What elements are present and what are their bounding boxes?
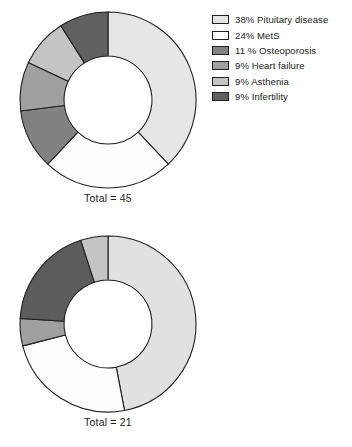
donut-slice	[20, 240, 94, 321]
legend-item-label: 9% Infertility	[235, 91, 288, 102]
legend-item: 9% Asthenia	[212, 74, 352, 89]
donut-slices-bottom	[20, 236, 196, 412]
donut-slices-top	[20, 12, 196, 188]
legend-item: 9% Heart failure	[212, 58, 352, 73]
legend-swatch-icon	[212, 46, 229, 55]
total-label-top: Total = 45	[8, 192, 208, 204]
donut-chart-bottom-svg	[8, 228, 208, 420]
donut-chart-bottom	[8, 228, 208, 420]
legend-item: 11 % Osteoporosis	[212, 43, 352, 58]
donut-slice	[108, 12, 196, 164]
donut-slice	[23, 335, 125, 412]
legend-top: 38% Pituitary disease24% MetS11 % Osteop…	[212, 12, 352, 104]
legend-item-label: 11 % Osteoporosis	[235, 45, 316, 56]
total-label-bottom: Total = 21	[8, 416, 208, 428]
legend-swatch-icon	[212, 77, 229, 86]
legend-item-label: 38% Pituitary disease	[235, 14, 328, 25]
donut-slice	[108, 236, 196, 410]
legend-item: 9% Infertility	[212, 89, 352, 104]
legend-item: 38% Pituitary disease	[212, 12, 352, 27]
legend-swatch-icon	[212, 31, 229, 40]
figure-donut-chart-top: Total = 45 38% Pituitary disease24% MetS…	[0, 0, 352, 224]
legend-swatch-icon	[212, 92, 229, 101]
legend-item: 24% MetS	[212, 27, 352, 42]
figure-donut-chart-bottom: Total = 21 47% Pituitary disease24% MetS…	[0, 224, 352, 447]
legend-item-label: 24% MetS	[235, 30, 280, 41]
legend-item-label: 9% Asthenia	[235, 76, 289, 87]
legend-swatch-icon	[212, 15, 229, 24]
donut-chart-top	[8, 4, 208, 196]
donut-chart-top-svg	[8, 4, 208, 196]
legend-swatch-icon	[212, 61, 229, 70]
legend-item-label: 9% Heart failure	[235, 60, 305, 71]
